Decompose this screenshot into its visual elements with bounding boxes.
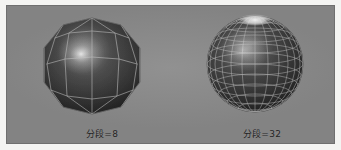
caption-left: 分段=8 — [7, 124, 197, 144]
smooth-sphere-render — [171, 6, 335, 124]
figure-image: 分段=8 分段=32 — [0, 0, 341, 150]
faceted-sphere-render — [7, 6, 171, 124]
viewport-left — [7, 6, 171, 124]
caption-right: 分段=32 — [171, 124, 335, 144]
viewport-right — [171, 6, 335, 124]
render-panel: 分段=8 分段=32 — [6, 5, 335, 144]
